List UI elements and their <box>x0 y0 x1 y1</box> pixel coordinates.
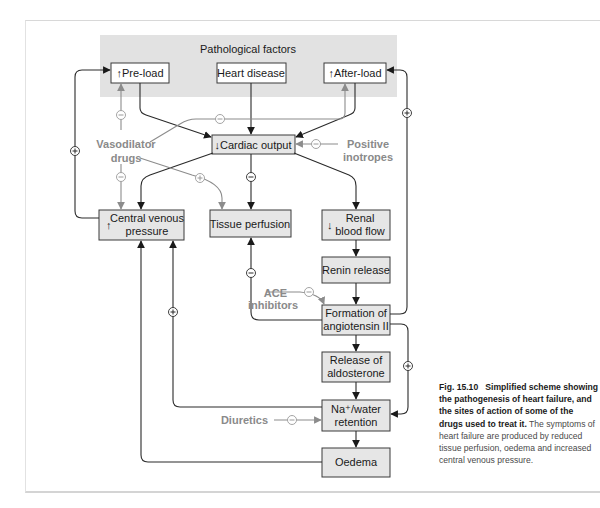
svg-text:↑Pre-load: ↑Pre-load <box>116 67 163 79</box>
plus-sign-icon <box>71 147 80 156</box>
minus-sign-icon <box>216 115 225 124</box>
caption-label: Fig. 15.10 <box>439 382 478 392</box>
drug-label-diuretics: Diuretics <box>221 414 268 426</box>
node-angiotensin-ii: Formation of angiotensin II <box>322 305 390 335</box>
node-afterload: ↑After-load <box>324 63 386 83</box>
node-oedema: Oedema <box>322 448 390 477</box>
figure-caption: Fig. 15.10 Simplified scheme showing the… <box>439 381 599 466</box>
svg-text:aldosterone: aldosterone <box>327 367 385 379</box>
minus-sign-icon <box>288 416 297 425</box>
node-renal-blood-flow: ↓ Renal blood flow <box>322 210 390 240</box>
svg-text:Renal: Renal <box>346 212 375 224</box>
svg-text:Na⁺/water: Na⁺/water <box>331 403 381 415</box>
svg-text:Diuretics: Diuretics <box>221 414 268 426</box>
group-label: Pathological factors <box>200 43 296 55</box>
drug-label-ace-inhibitors: ACE inhibitors <box>248 287 298 311</box>
svg-text:retention: retention <box>335 416 378 428</box>
svg-text:inotropes: inotropes <box>343 151 393 163</box>
svg-text:Release of: Release of <box>330 354 384 366</box>
edge-vasodilator-tissue <box>140 158 222 209</box>
drug-label-positive-inotropes: Positive inotropes <box>343 138 393 163</box>
svg-text:↑After-load: ↑After-load <box>328 67 381 79</box>
svg-text:pressure: pressure <box>126 225 169 237</box>
minus-sign-icon <box>305 288 314 297</box>
minus-sign-icon <box>117 111 126 120</box>
svg-text:↓: ↓ <box>327 219 333 231</box>
plus-sign-icon <box>404 362 413 371</box>
plus-sign-icon <box>169 308 178 317</box>
svg-text:↓Cardiac output: ↓Cardiac output <box>214 139 291 151</box>
edge-oedema-cvp <box>141 241 322 462</box>
svg-text:Oedema: Oedema <box>335 456 378 468</box>
svg-text:ACE: ACE <box>264 287 287 299</box>
svg-text:Central venous: Central venous <box>110 212 184 224</box>
plus-sign-icon <box>196 174 205 183</box>
svg-text:Tissue perfusion: Tissue perfusion <box>210 218 290 230</box>
svg-text:blood flow: blood flow <box>335 225 385 237</box>
node-preload: ↑Pre-load <box>111 63 169 83</box>
minus-sign-icon <box>247 269 256 278</box>
svg-text:drugs: drugs <box>111 152 142 164</box>
svg-text:inhibitors: inhibitors <box>248 299 298 311</box>
plus-sign-icon <box>403 109 412 118</box>
svg-text:angiotensin II: angiotensin II <box>323 320 388 332</box>
svg-text:Vasodilator: Vasodilator <box>96 138 156 150</box>
node-aldosterone: Release of aldosterone <box>322 352 390 382</box>
minus-sign-icon <box>117 173 126 182</box>
node-cardiac-output: ↓Cardiac output <box>212 135 295 154</box>
node-na-water-retention: Na⁺/water retention <box>322 400 390 431</box>
svg-text:Formation of: Formation of <box>325 307 388 319</box>
node-renin-release: Renin release <box>322 257 390 283</box>
node-central-venous-pressure: ↑ Central venous pressure <box>99 210 184 240</box>
svg-text:Positive: Positive <box>347 138 389 150</box>
svg-text:Heart disease: Heart disease <box>217 67 285 79</box>
node-heart-disease: Heart disease <box>217 63 286 83</box>
minus-sign-icon <box>312 140 321 149</box>
node-tissue-perfusion: Tissue perfusion <box>210 210 291 237</box>
edge-na-cvp <box>173 241 322 407</box>
minus-sign-icon <box>247 173 256 182</box>
svg-text:Renin release: Renin release <box>322 264 390 276</box>
